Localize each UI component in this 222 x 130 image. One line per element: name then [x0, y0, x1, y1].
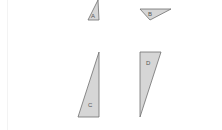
triangle-a: A [88, 0, 99, 20]
triangle-c: C [78, 52, 99, 117]
triangle-b: B [140, 9, 171, 20]
triangle-diagram: A B C D [0, 0, 222, 130]
triangle-d-shape [140, 52, 161, 117]
triangle-b-shape [140, 9, 171, 20]
triangle-b-label: B [148, 11, 152, 17]
triangle-d: D [140, 52, 161, 117]
triangle-c-label: C [88, 102, 93, 108]
triangle-a-label: A [91, 13, 95, 19]
triangle-d-label: D [146, 60, 151, 66]
